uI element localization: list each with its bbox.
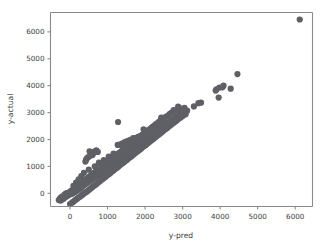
scatter-point <box>82 158 88 164</box>
scatter-point <box>234 71 240 77</box>
scatter-point <box>183 111 189 117</box>
x-tick-label: 2000 <box>136 212 155 221</box>
scatter-point <box>216 94 222 100</box>
x-tick-label: 6000 <box>286 212 305 221</box>
x-tick-label: 4000 <box>211 212 230 221</box>
x-tick-label: 1000 <box>98 212 117 221</box>
scatter-point <box>191 103 197 109</box>
y-tick-label: 3000 <box>26 108 45 117</box>
x-axis-title: y-pred <box>169 231 194 240</box>
scatter-point <box>297 16 303 22</box>
y-tick-label: 0 <box>40 189 45 198</box>
x-tick-label: 0 <box>68 212 73 221</box>
scatter-point <box>56 197 62 203</box>
scatter-point <box>115 119 121 125</box>
y-tick-label: 2000 <box>26 135 45 144</box>
y-tick-label: 4000 <box>26 81 45 90</box>
x-tick-label: 5000 <box>249 212 268 221</box>
y-tick-label: 5000 <box>26 54 45 63</box>
y-tick-label: 6000 <box>26 27 45 36</box>
scatter-point <box>181 105 187 111</box>
scatter-point <box>213 87 219 93</box>
y-axis-title: y-actual <box>6 94 15 124</box>
y-tick-label: 1000 <box>26 162 45 171</box>
x-tick-label: 3000 <box>173 212 192 221</box>
scatter-point <box>78 184 84 190</box>
plot-canvas: 0100020003000400050006000 01000200030004… <box>0 0 331 246</box>
scatter-point <box>86 153 92 159</box>
scatter-point <box>125 150 131 156</box>
scatter-plot-figure: 0100020003000400050006000 01000200030004… <box>0 0 331 246</box>
scatter-point <box>228 86 234 92</box>
